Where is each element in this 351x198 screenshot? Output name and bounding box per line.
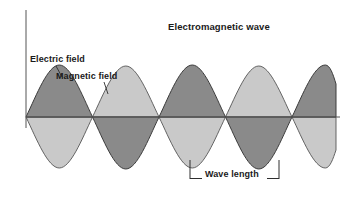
diagram-title: Electromagnetic wave xyxy=(168,22,270,32)
electromagnetic-wave-diagram: Electromagnetic wave Electric field Magn… xyxy=(0,0,351,198)
magnetic-field-lobe xyxy=(159,117,226,168)
electric-field-lobe xyxy=(159,65,226,117)
electric-field-lobe xyxy=(93,117,160,169)
magnetic-field-lobe xyxy=(26,117,93,168)
magnetic-field-lobe xyxy=(226,66,293,117)
wavelength-label: Wave length xyxy=(205,170,259,179)
magnetic-field-lobe xyxy=(292,117,336,168)
electric-field-label: Electric field xyxy=(30,55,85,64)
electric-field-lobe xyxy=(226,117,293,169)
electric-field-lobe xyxy=(292,65,336,117)
magnetic-field-label: Magnetic field xyxy=(56,72,117,81)
